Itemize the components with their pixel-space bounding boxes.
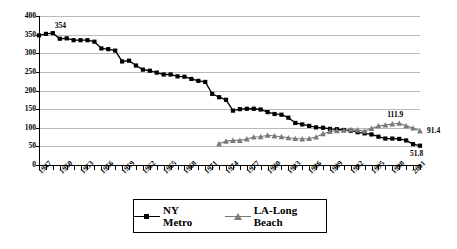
data-point-marker — [72, 38, 76, 42]
data-point-marker — [376, 135, 380, 139]
data-point-marker — [411, 142, 415, 146]
data-point-marker — [37, 33, 41, 37]
data-point-marker — [245, 107, 249, 111]
data-point-marker — [238, 107, 242, 111]
data-point-marker — [203, 80, 207, 84]
data-point-marker — [383, 136, 387, 140]
legend-item-la-long-beach[interactable]: LA-Long Beach — [225, 204, 326, 228]
data-point-marker — [307, 124, 311, 128]
data-point-marker — [113, 49, 117, 53]
data-point-marker — [279, 113, 283, 117]
data-point-marker — [266, 110, 270, 114]
data-point-marker — [99, 46, 103, 50]
data-point-marker — [169, 72, 173, 76]
data-point-marker — [418, 144, 422, 148]
data-point-marker — [404, 138, 408, 142]
data-point-marker — [272, 112, 276, 116]
legend: NY Metro LA-Long Beach — [133, 199, 327, 233]
data-point-marker — [314, 125, 318, 129]
data-point-marker — [390, 136, 394, 140]
data-point-marker — [92, 40, 96, 44]
line-chart: 400350300250200150100500 194719501953195… — [0, 0, 457, 249]
legend-label-ny-metro: NY Metro — [163, 204, 209, 228]
data-point-marker — [300, 122, 304, 126]
data-point-marker — [210, 92, 214, 96]
legend-item-ny-metro[interactable]: NY Metro — [134, 204, 209, 228]
data-point-marker — [127, 59, 131, 63]
data-point-marker — [148, 69, 152, 73]
data-point-marker — [189, 77, 193, 81]
data-point-marker — [120, 59, 124, 63]
data-point-marker — [417, 128, 423, 133]
data-point-marker — [58, 37, 62, 41]
data-point-marker — [51, 31, 55, 35]
data-point-marker — [141, 68, 145, 72]
data-point-marker — [175, 74, 179, 78]
data-point-marker — [397, 137, 401, 141]
data-point-marker — [106, 47, 110, 51]
data-point-marker — [196, 79, 200, 83]
data-point-marker — [78, 38, 82, 42]
data-point-marker — [65, 36, 69, 40]
data-point-marker — [217, 95, 221, 99]
data-point-marker — [162, 72, 166, 76]
data-point-marker — [155, 71, 159, 75]
data-label-354: 354 — [55, 22, 66, 30]
triangle-marker-icon — [225, 212, 250, 221]
data-point-marker — [321, 126, 325, 130]
legend-label-la-long-beach: LA-Long Beach — [254, 204, 326, 228]
data-point-marker — [134, 63, 138, 67]
data-point-marker — [85, 38, 89, 42]
square-marker-icon — [134, 212, 159, 221]
data-point-marker — [293, 121, 297, 125]
data-point-marker — [286, 116, 290, 120]
data-point-marker — [231, 109, 235, 113]
data-label-111-9: 111.9 — [387, 111, 403, 119]
data-point-marker — [224, 98, 228, 102]
data-point-marker — [252, 107, 256, 111]
data-point-marker — [369, 132, 373, 136]
data-point-marker — [182, 75, 186, 79]
data-point-marker — [44, 32, 48, 36]
data-label-51-8: 51.8 — [410, 150, 423, 158]
data-point-marker — [313, 134, 319, 139]
data-point-marker — [259, 107, 263, 111]
series-line-ny-metro — [39, 33, 420, 146]
data-label-91-4: 91.4 — [427, 127, 440, 135]
